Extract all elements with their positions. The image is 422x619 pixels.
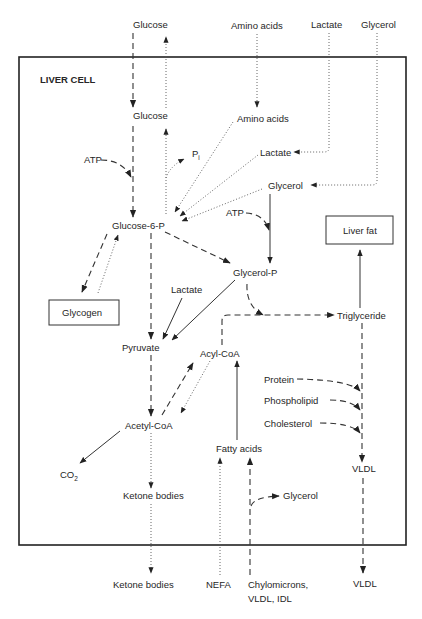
arrow-pi (166, 159, 184, 178)
node-triglyceride: Triglyceride (337, 310, 386, 321)
arrow-protein-to-vldl (297, 379, 360, 391)
node-pyruvate: Pyruvate (122, 342, 160, 353)
arrow-glycerol-p-to-tg (247, 284, 263, 315)
external-ketone-bodies-label: Ketone bodies (113, 579, 174, 590)
node-phospholipid: Phospholipid (264, 395, 318, 406)
node-vldl-inner: VLDL (352, 463, 376, 474)
node-glucose-6-p: Glucose-6-P (112, 220, 165, 231)
arrow-lactate-in (294, 33, 329, 152)
arrow-atp-left (101, 160, 131, 177)
node-amino-acids: Amino acids (237, 113, 289, 124)
node-pi: Pi (192, 148, 200, 161)
node-glycerol-p: Glycerol-P (233, 267, 277, 278)
arrow-acetyl-coa-to-co2 (80, 431, 120, 463)
arrow-g6p-to-glycogen (82, 234, 107, 292)
arrow-acyl-to-acetyl-coa (181, 361, 210, 413)
arrow-cholesterol-to-vldl (320, 423, 360, 433)
node-glycerol-upper: Glycerol (268, 180, 303, 191)
external-amino-acids-label: Amino acids (231, 20, 283, 31)
external-nefa-label: NEFA (206, 579, 231, 590)
node-liver-fat: Liver fat (343, 225, 377, 236)
liver-metabolism-diagram: LIVER CELL Glucose Amino acids Lactate G… (0, 0, 422, 619)
node-acyl-coa: Acyl-CoA (200, 348, 240, 359)
node-co2: CO2 (60, 469, 78, 482)
external-vldl-label: VLDL (353, 578, 377, 589)
node-ketone-bodies-inner: Ketone bodies (123, 490, 184, 501)
external-vldl-idl-label: VLDL, IDL (248, 593, 292, 604)
arrow-amino-acids-to-g6p (175, 122, 233, 212)
node-cholesterol: Cholesterol (264, 418, 312, 429)
arrow-acyl-coa-to-tg (222, 315, 334, 345)
node-glycogen: Glycogen (62, 307, 102, 318)
node-lactate-upper: Lactate (260, 147, 291, 158)
arrow-chylomicrons-glycerol (251, 496, 279, 506)
arrow-phospholipid-to-vldl (330, 400, 360, 410)
arrow-glycogen-to-g6p (98, 235, 118, 293)
node-glycerol-lower: Glycerol (283, 490, 318, 501)
external-chylomicrons-label: Chylomicrons, (248, 579, 308, 590)
arrow-acetyl-to-acyl-coa (162, 363, 193, 415)
external-glycerol-label: Glycerol (361, 19, 396, 30)
external-lactate-label: Lactate (311, 19, 342, 30)
arrow-g6p-to-glycerol-p (165, 232, 230, 263)
node-fatty-acids: Fatty acids (216, 443, 262, 454)
node-glucose: Glucose (133, 110, 168, 121)
node-atp-right: ATP (226, 207, 244, 218)
node-acetyl-coa: Acetyl-CoA (125, 420, 173, 431)
node-lactate-mid: Lactate (171, 284, 202, 295)
external-glucose-label: Glucose (133, 19, 168, 30)
node-protein: Protein (264, 374, 294, 385)
node-atp-left: ATP (84, 154, 102, 165)
liver-cell-title: LIVER CELL (40, 74, 96, 85)
arrow-glycerol-in (311, 33, 377, 185)
arrow-atp-right (246, 213, 269, 230)
